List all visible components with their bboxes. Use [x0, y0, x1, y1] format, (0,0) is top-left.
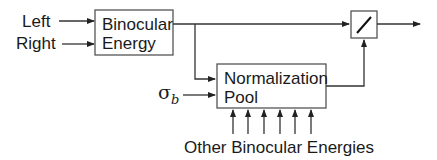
left-input-label: Left [22, 12, 51, 31]
right-input-label: Right [16, 34, 56, 53]
binocular-energy-block: Binocular Energy [95, 10, 173, 55]
other-energies-arrows [233, 110, 311, 134]
divider-block [351, 11, 377, 38]
other-binocular-energies-label: Other Binocular Energies [184, 138, 374, 157]
binocular-energy-line2: Energy [102, 34, 156, 53]
pool-to-divider-arrow [326, 40, 364, 86]
normalization-pool-block: Normalization Pool [217, 64, 328, 108]
normalization-pool-line2: Pool [224, 88, 258, 107]
energy-to-pool-arrow [195, 24, 215, 79]
binocular-energy-diagram: Left Right Binocular Energy Normalizatio… [0, 0, 437, 160]
binocular-energy-line1: Binocular [102, 15, 173, 34]
sigma-label: σb [158, 81, 179, 107]
normalization-pool-line1: Normalization [224, 69, 328, 88]
